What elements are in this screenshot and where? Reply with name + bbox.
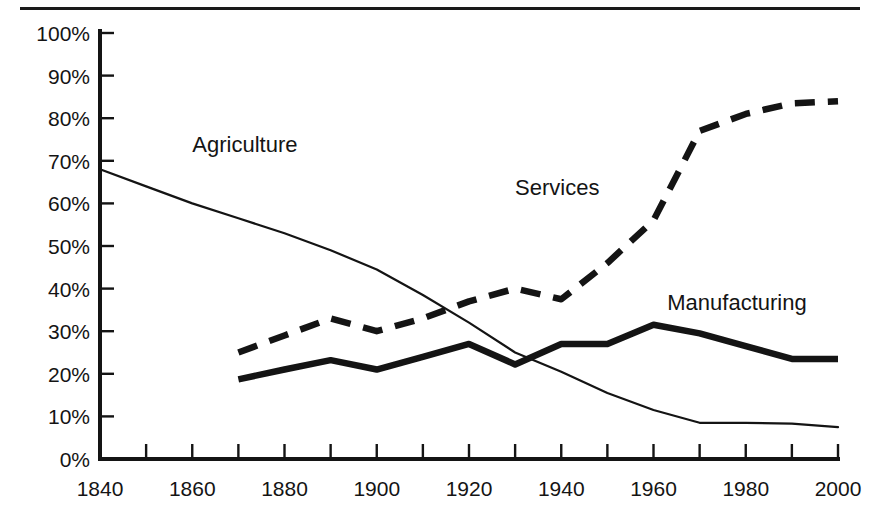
series-label-manufacturing: Manufacturing	[667, 290, 806, 315]
y-tick-label-40: 40%	[48, 278, 90, 301]
y-tick-label-0: 0%	[60, 448, 90, 471]
series-label-services: Services	[515, 175, 599, 200]
y-axis: 0%10%20%30%40%50%60%70%80%90%100%	[36, 22, 114, 471]
y-tick-label-10: 10%	[48, 405, 90, 428]
x-tick-marks	[100, 444, 838, 459]
y-tick-label-100: 100%	[36, 22, 90, 45]
y-tick-label-90: 90%	[48, 65, 90, 88]
y-tick-label-30: 30%	[48, 320, 90, 343]
series-annotations: Agriculture Services Manufacturing	[192, 132, 806, 315]
chart-figure: 0%10%20%30%40%50%60%70%80%90%100% 184018…	[0, 0, 870, 528]
x-tick-label-1960: 1960	[630, 477, 677, 500]
x-tick-label-1880: 1880	[261, 477, 308, 500]
x-axis: 184018601880190019201940196019802000	[77, 444, 862, 500]
y-tick-label-80: 80%	[48, 107, 90, 130]
x-tick-label-1920: 1920	[446, 477, 493, 500]
series-label-agriculture: Agriculture	[192, 132, 297, 157]
x-tick-label-1840: 1840	[77, 477, 124, 500]
y-tick-marks	[100, 33, 114, 459]
y-tick-label-60: 60%	[48, 192, 90, 215]
line-chart: 0%10%20%30%40%50%60%70%80%90%100% 184018…	[0, 0, 870, 528]
y-tick-label-20: 20%	[48, 363, 90, 386]
x-tick-label-1980: 1980	[722, 477, 769, 500]
y-tick-label-50: 50%	[48, 235, 90, 258]
x-tick-labels: 184018601880190019201940196019802000	[77, 477, 862, 500]
x-tick-label-1940: 1940	[538, 477, 585, 500]
x-tick-label-1860: 1860	[169, 477, 216, 500]
x-tick-label-2000: 2000	[815, 477, 862, 500]
y-tick-label-70: 70%	[48, 150, 90, 173]
x-tick-label-1900: 1900	[353, 477, 400, 500]
y-tick-labels: 0%10%20%30%40%50%60%70%80%90%100%	[36, 22, 90, 471]
series-line-manufacturing	[238, 325, 838, 380]
